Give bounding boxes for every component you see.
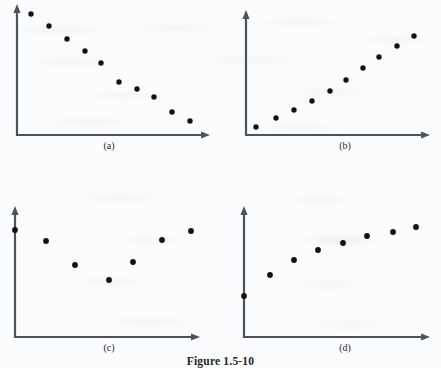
data-point [187,118,192,123]
data-point [169,109,174,114]
scatter-panel-d [236,198,436,343]
data-points-b [253,33,416,129]
data-point [364,233,370,239]
data-point [253,124,258,129]
axes-b [242,10,430,139]
data-point [82,48,87,53]
data-point [273,115,278,120]
data-points-a [28,11,192,123]
data-point [376,54,381,59]
data-point [315,247,321,253]
data-point [343,77,348,82]
data-point [151,94,156,99]
data-point [411,33,416,38]
data-point [134,86,139,91]
data-point [394,43,399,48]
data-point [188,228,194,234]
data-point [291,257,297,263]
data-point [413,224,419,230]
scatter-plot-d-svg [236,198,436,343]
data-point [360,65,365,70]
y-axis-arrow-icon-d [240,206,247,215]
data-point-on-axis [12,227,18,233]
x-axis-arrow-icon-a [201,131,210,138]
data-point [309,98,314,103]
y-axis-arrow-icon-c [11,206,18,215]
scatter-panel-c [6,198,216,343]
data-point [130,259,136,265]
scatter-plot-b-svg [236,2,436,142]
data-point [159,237,165,243]
data-point [390,229,396,235]
panel-label-c: (c) [89,342,129,353]
data-point [28,11,33,16]
data-point [267,272,273,278]
data-point [98,60,103,65]
outlier-point-on-axis [241,293,247,299]
data-points-d [241,224,419,299]
x-axis-arrow-icon-c [191,333,200,340]
scatter-panel-b [236,2,436,142]
data-point [116,79,121,84]
data-points-c [12,227,194,283]
panel-label-d: (d) [325,342,365,353]
data-point [106,277,112,283]
scatter-plot-a-svg [6,2,216,142]
figure-caption: Figure 1.5-10 [0,355,441,368]
data-point [340,240,346,246]
scatter-plot-c-svg [6,198,216,343]
data-point [64,36,69,41]
axes-c [11,206,200,341]
figure-page: (a) (b) [0,0,441,368]
y-axis-arrow-icon-a [13,4,20,13]
x-axis-arrow-icon-d [421,333,430,340]
data-point [291,107,296,112]
panel-label-a: (a) [89,140,129,151]
y-axis-arrow-icon-b [242,10,249,19]
panel-label-b: (b) [325,140,365,151]
scatter-panel-a [6,2,216,142]
axes-a [13,4,210,139]
data-point [43,238,49,244]
data-point [46,23,51,28]
x-axis-arrow-icon-b [421,131,430,138]
data-point [327,88,332,93]
data-point [72,262,78,268]
